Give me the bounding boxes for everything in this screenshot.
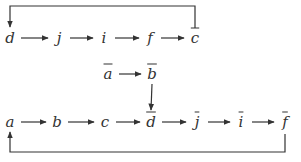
node-f: f [147,31,153,46]
node-dbar: d [146,115,156,130]
node-cbar: c [191,31,199,46]
node-c: c [101,115,109,130]
node-jbar: j [195,115,200,130]
node-i: i [102,31,107,46]
node-ibar: i [239,115,244,130]
arrow-bbar-to-dbar [151,84,152,110]
node-b: b [52,115,62,130]
node-j: j [57,31,62,46]
chain-diagram: djifcababcdjif [0,0,301,162]
node-abar: a [104,67,113,82]
node-fbar: f [282,115,288,130]
arrow-cbar-to-d [10,6,195,28]
node-bbar: b [147,67,157,82]
node-d: d [5,31,15,46]
arrow-fbar-to-a [10,132,285,152]
node-a: a [6,115,15,130]
